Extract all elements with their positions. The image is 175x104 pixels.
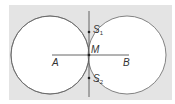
label-b: B [123,57,130,68]
point-m [88,54,91,57]
label-m: M [91,44,100,55]
bisector-diagram: A B M S1 S2 [0,0,175,104]
label-a: A [51,57,59,68]
point-s2 [88,77,91,80]
point-s1 [88,31,91,34]
